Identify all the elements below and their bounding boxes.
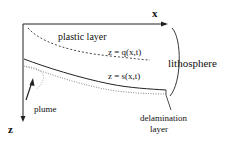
delamination-dotted-curve [24, 66, 166, 94]
plastic-layer-label: plastic layer [58, 31, 107, 42]
plume-outline [26, 67, 44, 89]
q-curve-label: z = q(x,t) [108, 47, 141, 57]
z-axis-label: z [8, 123, 13, 135]
plume-label: plume [34, 104, 57, 114]
s-curve-label: z = s(x,t) [108, 71, 140, 81]
z-arrowhead-icon [21, 116, 26, 122]
s-curve-solid [24, 59, 166, 90]
lithosphere-label: lithosphere [168, 57, 217, 69]
x-axis [23, 22, 168, 27]
x-axis-label: x [152, 7, 158, 19]
x-arrowhead-icon [161, 22, 168, 27]
delamination-label-line2: layer [150, 124, 168, 134]
z-axis [21, 24, 26, 122]
lithosphere-delamination-diagram: x z plastic layer z = q(x,t) z = s(x,t) … [0, 0, 234, 143]
plume-arrow-icon [26, 78, 35, 100]
delamination-label-line1: delamination [140, 113, 187, 123]
delamination-pointer [166, 95, 171, 110]
